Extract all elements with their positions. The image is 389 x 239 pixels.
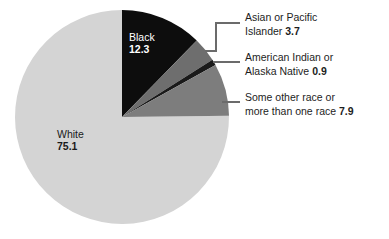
pie-chart-canvas bbox=[0, 0, 389, 239]
pie-slices bbox=[15, 10, 229, 224]
pie-callout-asian-pacific-islander: Asian or Pacific Islander 3.7 bbox=[245, 11, 317, 39]
pie-callout-other-race-line2: more than one race bbox=[245, 105, 336, 117]
pie-callout-asian-line1: Asian or Pacific bbox=[245, 11, 317, 23]
pie-callout-american-indian-line2: Alaska Native bbox=[245, 65, 309, 77]
pie-callout-other-race-value: 7.9 bbox=[339, 105, 354, 117]
pie-callout-asian-value: 3.7 bbox=[285, 25, 300, 37]
pie-label-black: Black 12.3 bbox=[129, 31, 155, 56]
pie-callout-american-indian-value: 0.9 bbox=[312, 65, 327, 77]
pie-callout-american-indian-alaska-native: American Indian or Alaska Native 0.9 bbox=[245, 51, 333, 79]
pie-callout-some-other-race: Some other race or more than one race 7.… bbox=[245, 91, 354, 119]
pie-label-white-name: White bbox=[57, 128, 84, 140]
pie-label-black-name: Black bbox=[129, 31, 155, 43]
pie-callout-asian-line2: Islander bbox=[245, 25, 282, 37]
pie-chart: Black 12.3 White 75.1 Asian or Pacific I… bbox=[0, 0, 389, 239]
pie-label-white: White 75.1 bbox=[57, 128, 84, 153]
pie-label-white-value: 75.1 bbox=[57, 140, 84, 152]
pie-callout-other-race-line1: Some other race or bbox=[245, 91, 335, 103]
leader-line-asian-pacific-islander bbox=[205, 23, 240, 51]
pie-callout-american-indian-line1: American Indian or bbox=[245, 51, 333, 63]
pie-label-black-value: 12.3 bbox=[129, 43, 155, 55]
